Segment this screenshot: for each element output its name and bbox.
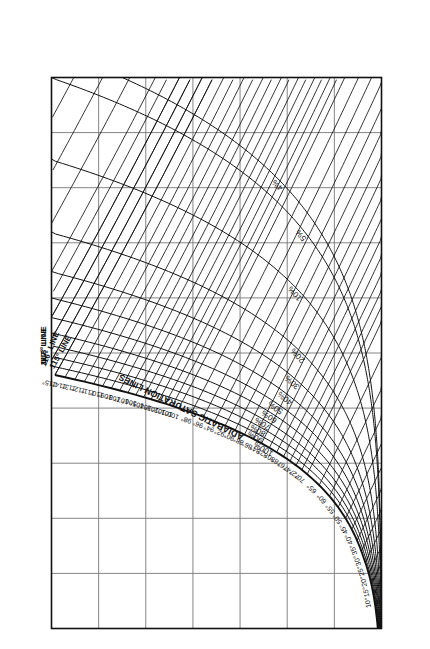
psychrometric-chart-screenshot: 0.000.010.020.030.040.050.060.07HUMIDITY… (0, 0, 430, 649)
chart-canvas: 4%5%10%20%30%40%50%60%70%80%90%100%10°15… (0, 0, 430, 649)
chart-plot-area: 4%5%10%20%30%40%50%60%70%80%90%100%10°15… (0, 0, 430, 649)
chart-rotor: 4%5%10%20%30%40%50%60%70%80%90%100%10°15… (0, 0, 430, 649)
